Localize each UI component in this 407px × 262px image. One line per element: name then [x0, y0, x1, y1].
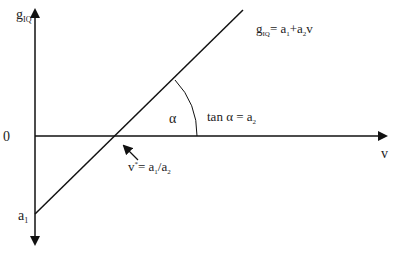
y-axis-label: gIQ: [16, 7, 32, 24]
linear-function-diagram: gIQ 0 a1 v gIQ= a1+a2v α tan α = a2 v*= …: [0, 0, 407, 262]
root-pointer-arrow: [124, 146, 138, 160]
slope-label: tan α = a2: [207, 109, 257, 126]
origin-label: 0: [3, 129, 10, 144]
angle-label: α: [169, 111, 177, 126]
intercept-label: a1: [18, 208, 28, 225]
line-equation: gIQ= a1+a2v: [256, 21, 313, 38]
angle-arc: [175, 80, 197, 136]
x-axis-label: v: [381, 146, 388, 161]
root-label: v*= a1/a2: [128, 159, 171, 176]
